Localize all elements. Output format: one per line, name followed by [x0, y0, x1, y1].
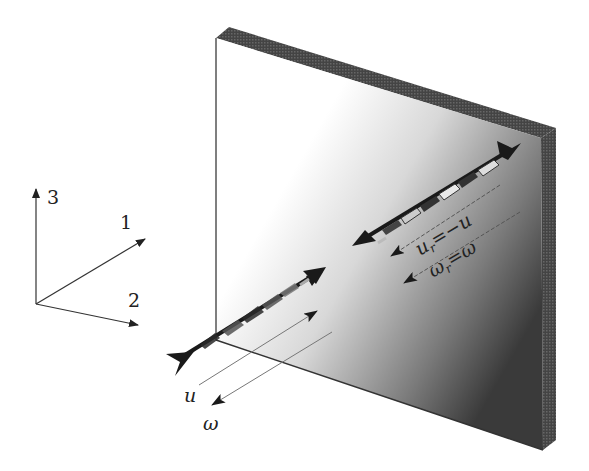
u-label: u: [184, 384, 196, 406]
omega-label: ω: [203, 412, 219, 434]
wall-side-edge: [541, 128, 556, 450]
axis-2-label: 2: [128, 289, 140, 311]
axis-1-label: 1: [120, 211, 132, 233]
wall-reflection-diagram: 3 1 2 u ω: [0, 0, 589, 471]
axis-2: [36, 304, 138, 325]
incident-tail: [166, 349, 196, 376]
coordinate-axes: 3 1 2: [36, 186, 145, 325]
wall-front-face: [216, 38, 543, 450]
axis-3-label: 3: [47, 186, 59, 208]
